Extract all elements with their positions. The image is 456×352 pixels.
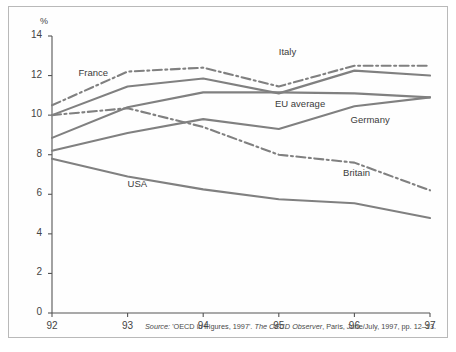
series-label-france: France bbox=[79, 67, 109, 78]
chart-axes bbox=[48, 36, 430, 317]
caption-source-word: Source: bbox=[145, 322, 170, 331]
source-caption: Source: 'OECD in Figures, 1997'. The OEC… bbox=[8, 322, 442, 331]
y-tick-8: 8 bbox=[24, 148, 42, 159]
caption-source-title: 'OECD in Figures, 1997'. bbox=[172, 322, 252, 331]
caption-rest: , Paris, June/July, 1997, pp. 12–13. bbox=[322, 322, 436, 331]
y-tick-12: 12 bbox=[24, 69, 42, 80]
caption-publication: The OECD Observer bbox=[254, 322, 322, 331]
y-tick-4: 4 bbox=[24, 227, 42, 238]
chart-plot-area bbox=[0, 0, 456, 352]
series-label-germany: Germany bbox=[351, 114, 390, 125]
series-label-britain: Britain bbox=[343, 167, 370, 178]
chart-series-lines bbox=[52, 66, 430, 218]
y-tick-10: 10 bbox=[24, 108, 42, 119]
series-label-eu-average: EU average bbox=[275, 98, 325, 109]
series-label-usa: USA bbox=[128, 178, 148, 189]
y-tick-2: 2 bbox=[24, 266, 42, 277]
y-tick-6: 6 bbox=[24, 187, 42, 198]
y-tick-0: 0 bbox=[24, 306, 42, 317]
y-axis-unit-label: % bbox=[40, 16, 48, 26]
y-tick-14: 14 bbox=[24, 29, 42, 40]
chart-figure: % 02468101214 929394959697 FranceItalyEU… bbox=[0, 0, 456, 352]
series-label-italy: Italy bbox=[279, 46, 296, 57]
series-line-usa bbox=[52, 159, 430, 218]
